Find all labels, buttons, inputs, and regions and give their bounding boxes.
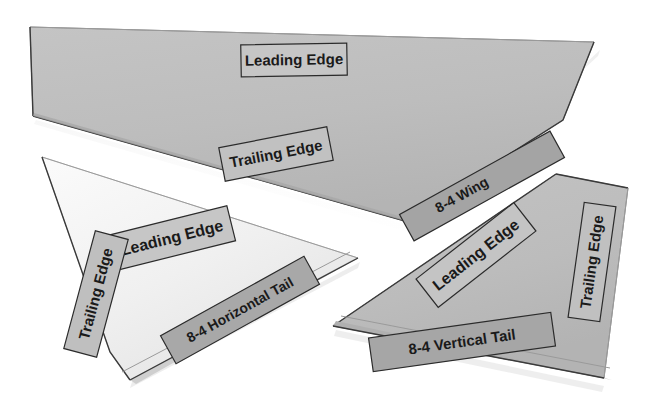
photo-canvas: Leading Edge Trailing Edge 8-4 Wing [0,0,663,411]
wing-leading-edge-label: Leading Edge [241,43,348,77]
parts-illustration: Leading Edge Trailing Edge 8-4 Wing [0,0,663,411]
label-text: Leading Edge [245,50,344,69]
